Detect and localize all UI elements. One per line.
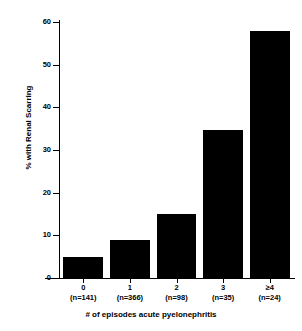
bar [63,257,103,278]
x-axis-category-label: ≥4(n=24) [240,283,300,303]
y-axis-tick-label: 10 [11,231,51,239]
y-axis-tick-label: 50 [11,61,51,69]
y-axis-tick [53,235,59,236]
bar [250,31,290,278]
bar [157,214,197,278]
y-axis-tick [53,107,59,108]
y-axis-tick-label: 30 [11,146,51,154]
category-name: ≥4 [266,283,274,292]
y-axis-tick-label: 0 [11,274,51,282]
category-name: 2 [174,283,178,292]
category-name: 1 [128,283,132,292]
x-axis-title: # of episodes acute pyelonephritis [0,310,302,319]
y-axis-tick-label: 60 [11,18,51,26]
bar-chart-figure: % with Renal Scarring 0102030405060 0(n=… [0,0,302,331]
y-axis-tick [53,150,59,151]
bar [203,130,243,278]
y-axis-title: % with Renal Scarring [24,48,33,208]
bar-series [60,22,293,278]
category-sample-size: (n=24) [240,293,300,303]
y-axis-tick-label: 40 [11,103,51,111]
y-axis-tick [53,278,59,279]
bar [110,240,150,278]
y-axis-tick-label: 20 [11,189,51,197]
y-axis-tick [53,193,59,194]
category-name: 3 [221,283,225,292]
y-axis-tick [53,22,59,23]
category-name: 0 [81,283,85,292]
y-axis-tick [53,65,59,66]
